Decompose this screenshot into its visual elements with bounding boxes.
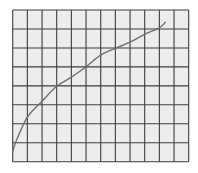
chart bbox=[0, 0, 198, 173]
line-chart-plot bbox=[0, 0, 198, 173]
